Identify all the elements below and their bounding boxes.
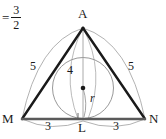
length-label-altitude: 4: [67, 64, 73, 76]
length-label-segment-ml: 3: [45, 120, 51, 132]
vertex-label-m: M: [2, 112, 14, 125]
length-label-side-an: 5: [128, 60, 134, 72]
length-label-segment-ln: 3: [113, 120, 119, 132]
vertex-label-n: N: [149, 112, 158, 125]
vertex-label-a: A: [78, 7, 87, 20]
arc-apex-right-inner: [83, 28, 96, 119]
incenter-dot: [81, 86, 86, 91]
geometry-figure: = 3 2 A M N: [0, 0, 166, 139]
apex-dot: [81, 26, 84, 29]
vertex-label-l: L: [78, 121, 86, 134]
length-label-side-ma: 5: [30, 60, 36, 72]
length-label-inradius: r: [90, 92, 95, 104]
